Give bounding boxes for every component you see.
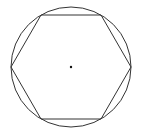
hexagon-in-circle-diagram: [0, 0, 141, 137]
center-point: [70, 66, 72, 68]
